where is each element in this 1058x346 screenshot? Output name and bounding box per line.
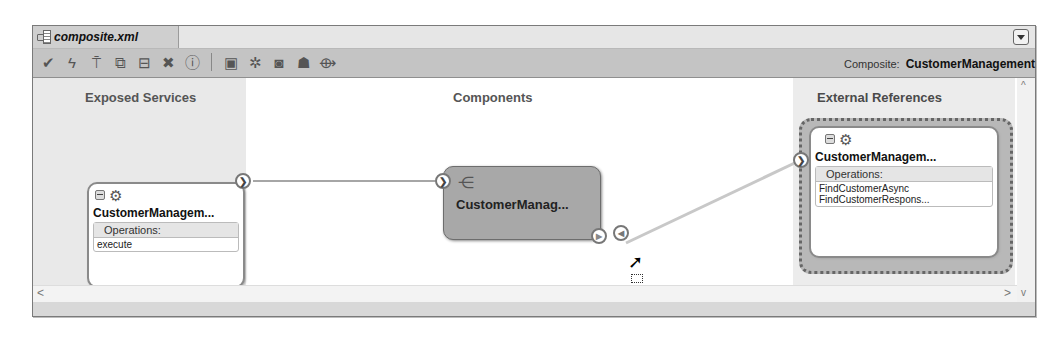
operations-header: Operations: — [816, 167, 992, 182]
mediator-icon: ⋲ — [458, 173, 474, 192]
database-icon[interactable]: ▣ — [222, 53, 240, 71]
exposed-service-name: CustomerManagem... — [89, 206, 243, 220]
test-antenna-icon[interactable]: ⍑ — [87, 53, 105, 71]
gear-service-icon: ⚙ — [109, 188, 122, 203]
delete-x-icon[interactable]: ✖ — [159, 53, 177, 71]
collapse-icon[interactable] — [825, 134, 835, 144]
component-palette-icon[interactable]: ☗ — [294, 53, 312, 71]
toolbar: ✔ ϟ ⍑ ⧉ ⊟ ✖ ⓘ ▣ ✲ ◙ ☗ ⟴ Composite:Custom… — [33, 49, 1035, 78]
composite-name: CustomerManagement — [906, 57, 1035, 71]
tab-composite-xml[interactable]: composite.xml — [33, 26, 179, 48]
external-reference-name: CustomerManagem... — [811, 150, 997, 164]
scroll-up-icon[interactable]: ^ — [1021, 80, 1026, 91]
wiring-icon[interactable]: ⟴ — [318, 53, 336, 71]
component-reference-connector[interactable] — [591, 228, 607, 244]
composite-label: Composite: — [844, 58, 900, 70]
drag-indicator-icon — [631, 274, 643, 283]
scroll-down-icon[interactable]: v — [1021, 287, 1026, 298]
operation-item[interactable]: FindCustomerAsync — [816, 182, 992, 194]
operations-header: Operations: — [94, 223, 238, 238]
composite-canvas[interactable]: Exposed Services Components External Ref… — [33, 78, 1035, 302]
exposed-service-connector[interactable] — [235, 173, 251, 189]
external-references-title: External References — [817, 90, 942, 105]
scroll-right-icon[interactable]: > — [1004, 286, 1011, 300]
external-reference-box[interactable]: ⚙ CustomerManagem... Operations: FindCus… — [809, 126, 999, 258]
copy-icon[interactable]: ⧉ — [111, 53, 129, 71]
component-name: CustomerManag... — [456, 197, 569, 212]
exposed-services-title: Exposed Services — [85, 90, 196, 105]
wire-drag-handle[interactable] — [613, 225, 629, 241]
record-icon[interactable]: ◙ — [270, 53, 288, 71]
mediator-component[interactable]: ⋲ CustomerManag... — [443, 166, 601, 240]
operations-list: Operations: FindCustomerAsync FindCustom… — [815, 166, 993, 207]
component-service-connector[interactable] — [435, 173, 451, 189]
components-title: Components — [453, 90, 532, 105]
composite-editor-window: composite.xml ✔ ϟ ⍑ ⧉ ⊟ ✖ ⓘ ▣ ✲ ◙ ☗ ⟴ Co… — [32, 25, 1036, 317]
tab-list-dropdown-button[interactable] — [1013, 29, 1029, 45]
composite-file-icon — [37, 30, 51, 44]
operation-item[interactable]: FindCustomerRespons... — [816, 194, 992, 206]
vertical-scrollbar[interactable]: ^ v — [1017, 78, 1035, 302]
operations-list: Operations: execute — [93, 222, 239, 252]
tab-strip: composite.xml — [33, 26, 1035, 49]
layout-icon[interactable]: ⊟ — [135, 53, 153, 71]
info-icon[interactable]: ⓘ — [183, 53, 201, 71]
tab-label: composite.xml — [54, 30, 138, 44]
toolbar-separator — [211, 53, 212, 71]
gear-service-icon: ⚙ — [839, 132, 852, 147]
operation-item[interactable]: execute — [94, 238, 238, 251]
mouse-cursor-icon: ➚ — [628, 251, 643, 273]
services-icon[interactable]: ✲ — [246, 53, 264, 71]
horizontal-scrollbar[interactable]: < > — [33, 285, 1017, 302]
exposed-service-box[interactable]: ⚙ CustomerManagem... Operations: execute — [87, 182, 245, 288]
deploy-bolt-icon[interactable]: ϟ — [63, 53, 81, 71]
scroll-left-icon[interactable]: < — [37, 286, 44, 300]
composite-info: Composite:CustomerManagement — [844, 57, 1035, 71]
validate-check-icon[interactable]: ✔ — [39, 53, 57, 71]
external-reference-connector[interactable] — [793, 152, 809, 168]
collapse-icon[interactable] — [95, 190, 105, 200]
